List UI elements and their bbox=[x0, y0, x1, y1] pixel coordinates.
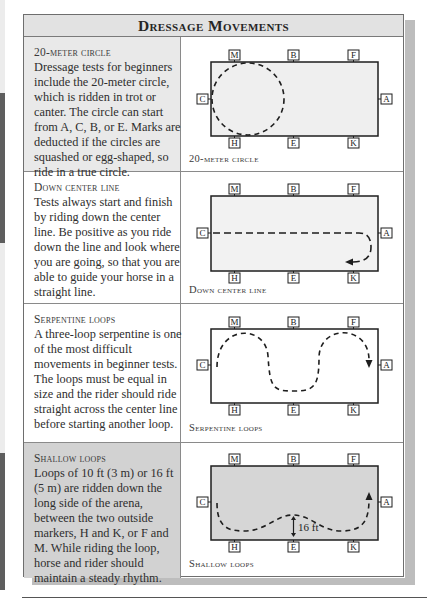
movement-row-shallow-loops: Shallow loops Loops of 10 ft (3 m) or 16… bbox=[24, 443, 403, 578]
svg-text:C: C bbox=[199, 228, 205, 238]
panel-title: Dressage Movements bbox=[24, 15, 403, 37]
movement-text: Serpentine loops A three-loop serpentine… bbox=[24, 304, 181, 442]
movement-title: Serpentine loops bbox=[34, 312, 180, 327]
svg-text:B: B bbox=[290, 454, 296, 464]
svg-text:H: H bbox=[231, 138, 238, 148]
movement-text: 20-meter circle Dressage tests for begin… bbox=[24, 37, 181, 171]
movement-description: A three-loop serpentine is one of the mo… bbox=[34, 327, 182, 432]
svg-text:E: E bbox=[291, 405, 297, 415]
svg-text:H: H bbox=[231, 542, 238, 552]
svg-text:C: C bbox=[199, 497, 205, 507]
svg-text:A: A bbox=[383, 360, 390, 370]
arena-diagram-circle: MBF HEK CA 20-meter circle bbox=[181, 37, 403, 171]
svg-text:F: F bbox=[351, 317, 356, 327]
movement-description: Loops of 10 ft (3 m) or 16 ft (5 m) are … bbox=[34, 466, 182, 586]
svg-text:M: M bbox=[230, 184, 238, 194]
svg-text:A: A bbox=[383, 497, 390, 507]
diagram-caption: Serpentine loops bbox=[189, 422, 263, 433]
svg-text:H: H bbox=[231, 273, 238, 283]
panel-shadow-right bbox=[405, 20, 415, 585]
movement-text: Shallow loops Loops of 10 ft (3 m) or 16… bbox=[24, 443, 181, 578]
diagram-caption: 20-meter circle bbox=[189, 153, 259, 164]
page-bottom-rule bbox=[22, 597, 427, 598]
svg-text:K: K bbox=[350, 405, 357, 415]
page-edge-tab bbox=[0, 453, 5, 590]
arena-diagram-shallow-loops: MBF HEK CA 16 ft Shallow loops bbox=[181, 443, 403, 578]
svg-text:E: E bbox=[291, 273, 297, 283]
svg-text:K: K bbox=[350, 273, 357, 283]
svg-text:A: A bbox=[383, 94, 390, 104]
svg-text:K: K bbox=[350, 542, 357, 552]
svg-text:F: F bbox=[351, 184, 356, 194]
movement-title: 20-meter circle bbox=[34, 45, 180, 60]
svg-text:M: M bbox=[230, 454, 238, 464]
svg-text:C: C bbox=[199, 94, 205, 104]
svg-text:M: M bbox=[230, 317, 238, 327]
arena-diagram-center-line: MBF HEK CA Down center line bbox=[181, 172, 403, 303]
arena-circle-svg: MBF HEK CA bbox=[181, 37, 405, 172]
svg-text:E: E bbox=[291, 138, 297, 148]
svg-text:E: E bbox=[291, 542, 297, 552]
loop-depth-label: 16 ft bbox=[298, 521, 318, 533]
dressage-panel: Dressage Movements 20-meter circle Dress… bbox=[23, 14, 404, 577]
movement-description: Tests always start and finish by riding … bbox=[34, 195, 182, 300]
svg-text:M: M bbox=[230, 50, 238, 60]
movement-title: Down center line bbox=[34, 180, 180, 195]
arena-diagram-serpentine: MBF HEK CA Serpentine loops bbox=[181, 304, 403, 442]
page-edge-light bbox=[0, 243, 5, 453]
diagram-caption: Down center line bbox=[189, 284, 267, 295]
svg-text:K: K bbox=[350, 138, 357, 148]
svg-text:F: F bbox=[351, 454, 356, 464]
svg-text:F: F bbox=[351, 50, 356, 60]
svg-text:B: B bbox=[290, 184, 296, 194]
svg-text:B: B bbox=[290, 317, 296, 327]
svg-text:H: H bbox=[231, 405, 238, 415]
diagram-caption: Shallow loops bbox=[189, 558, 254, 569]
page-edge-light bbox=[0, 0, 5, 93]
page-edge-tab bbox=[0, 93, 5, 243]
svg-text:C: C bbox=[199, 360, 205, 370]
svg-text:A: A bbox=[383, 228, 390, 238]
movement-row-center-line: Down center line Tests always start and … bbox=[24, 172, 403, 304]
svg-text:B: B bbox=[290, 50, 296, 60]
movement-text: Down center line Tests always start and … bbox=[24, 172, 181, 303]
movement-description: Dressage tests for beginners include the… bbox=[34, 60, 182, 180]
movement-row-serpentine: Serpentine loops A three-loop serpentine… bbox=[24, 304, 403, 443]
movement-title: Shallow loops bbox=[34, 451, 180, 466]
movement-row-circle: 20-meter circle Dressage tests for begin… bbox=[24, 37, 403, 172]
